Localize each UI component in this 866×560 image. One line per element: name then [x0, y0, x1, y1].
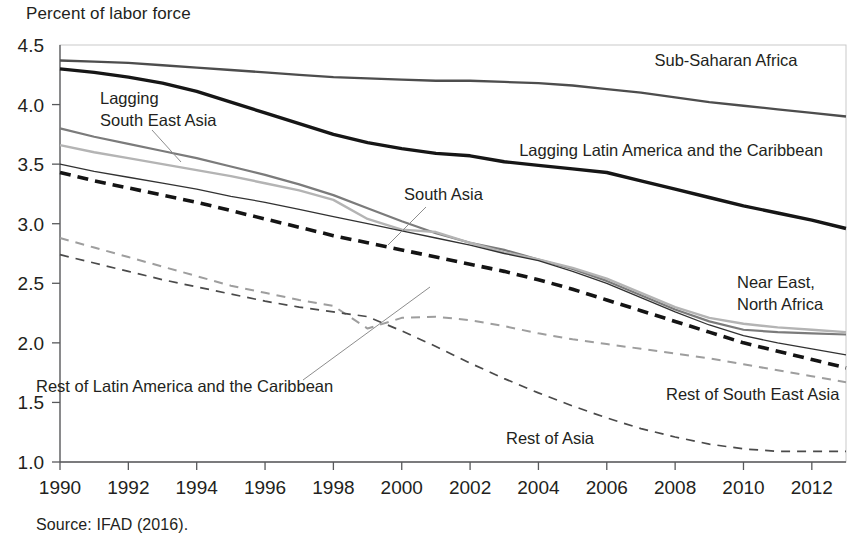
series-annotation: Rest of Asia: [506, 429, 595, 447]
source-note: Source: IFAD (2016).: [36, 516, 188, 534]
y-tick-label: 1.5: [18, 392, 44, 413]
x-axis-ticks: 1990199219941996199820002002200420062008…: [39, 462, 833, 498]
x-tick-label: 2010: [722, 477, 764, 498]
series-annotation: South East Asia: [100, 111, 217, 129]
x-tick-label: 1992: [107, 477, 149, 498]
leader-line: [303, 287, 430, 380]
y-tick-label: 4.0: [18, 95, 44, 116]
series-line: [60, 255, 846, 452]
y-tick-label: 4.5: [18, 35, 44, 56]
series-annotation: Lagging Latin America and the Caribbean: [519, 141, 823, 159]
series-annotation: Near East,: [737, 273, 815, 291]
x-tick-label: 1990: [39, 477, 81, 498]
y-tick-label: 2.5: [18, 273, 44, 294]
x-tick-label: 2000: [381, 477, 423, 498]
x-tick-label: 2008: [654, 477, 696, 498]
x-tick-label: 1998: [312, 477, 354, 498]
line-chart: 1.01.52.02.53.03.54.04.5 199019921994199…: [0, 0, 866, 500]
leader-line: [152, 130, 181, 162]
series-annotation: Lagging: [100, 89, 159, 107]
figure-container: Percent of labor force 1.01.52.02.53.03.…: [0, 0, 866, 560]
x-tick-label: 2006: [586, 477, 628, 498]
x-tick-label: 2002: [449, 477, 491, 498]
leader-lines: [152, 130, 430, 380]
x-tick-label: 1994: [176, 477, 219, 498]
series-annotation: Rest of South East Asia: [666, 385, 840, 403]
y-tick-label: 1.0: [18, 452, 44, 473]
series-annotations: Sub-Saharan AfricaLagging Latin America …: [36, 51, 840, 447]
y-axis-ticks: 1.01.52.02.53.03.54.04.5: [18, 35, 60, 473]
x-tick-label: 2004: [517, 477, 560, 498]
y-tick-label: 2.0: [18, 333, 44, 354]
x-tick-label: 1996: [244, 477, 286, 498]
series-annotation: Sub-Saharan Africa: [654, 51, 798, 69]
series-line: [60, 145, 846, 332]
x-tick-label: 2012: [791, 477, 833, 498]
y-tick-label: 3.0: [18, 214, 44, 235]
y-tick-label: 3.5: [18, 154, 44, 175]
series-annotation: South Asia: [404, 185, 484, 203]
series-annotation: Rest of Latin America and the Caribbean: [36, 377, 333, 395]
series-annotation: North Africa: [737, 295, 824, 313]
